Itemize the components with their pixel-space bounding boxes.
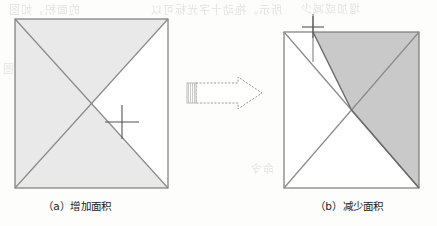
figure-canvas: [0, 0, 437, 226]
figure-b-caption: （b）减少面积: [315, 198, 384, 213]
transition-arrow: [187, 77, 262, 109]
figure-page: 的面积，如图 所示。拖动十字光标可以 增加或减少 绘图 命令: [0, 0, 437, 226]
figure-a-caption: （a）增加面积: [43, 198, 112, 213]
figure-b-group: [284, 14, 419, 188]
arrow-tail-hatch: [187, 83, 196, 103]
arrow-body-outline: [196, 77, 262, 109]
figure-a-group: [15, 19, 168, 188]
